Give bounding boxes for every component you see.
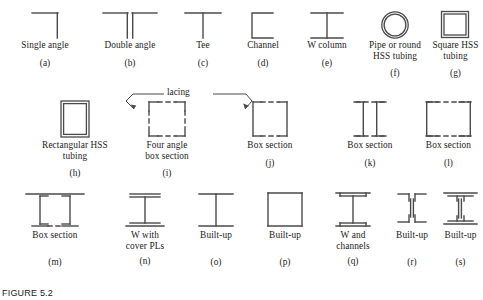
pipe-round-hss-drawing	[360, 0, 430, 40]
lacing-annotation-label: lacing	[167, 87, 190, 97]
w-column-drawing	[294, 0, 360, 40]
shape-cell-rectangular-hss: Rectangular HSS tubing (h)	[22, 98, 128, 179]
shape-cell-box-section-l: Box section (l)	[414, 98, 483, 169]
shape-tag: (h)	[22, 168, 128, 179]
shape-cell-built-up-o: Built-up (o)	[182, 186, 250, 268]
shape-label: Four angle box section	[128, 140, 206, 161]
shape-cell-square-hss: Square HSS tubing (g)	[428, 0, 483, 79]
shape-label: Channel	[232, 40, 294, 51]
shape-cell-w-cover-plates: W with cover PLs (n)	[108, 186, 182, 267]
shape-label: Built-up	[182, 230, 250, 241]
shape-label: W with cover PLs	[108, 230, 182, 251]
shape-row-1: Single angle (a) Double angle (b)	[0, 0, 483, 78]
shape-label: Square HSS tubing	[428, 40, 483, 61]
shape-label: Built-up	[250, 230, 320, 241]
built-up-s-drawing	[438, 186, 483, 230]
built-up-r-drawing	[386, 186, 438, 230]
shape-cell-box-section-m: Box section (m)	[2, 186, 108, 268]
shape-cell-box-section-j: Box section (j)	[212, 98, 328, 169]
shape-cell-built-up-p: Built-up (p)	[250, 186, 320, 268]
rectangular-hss-drawing	[22, 98, 128, 140]
shape-cell-double-angle: Double angle (b)	[86, 0, 174, 69]
built-up-p-drawing	[250, 186, 320, 230]
shape-tag: (b)	[86, 58, 174, 69]
shape-cell-tee: Tee (c)	[174, 0, 232, 69]
shape-cell-four-angle-box: Four angle box section (i)	[128, 98, 206, 179]
w-and-channels-drawing	[320, 186, 386, 230]
shape-label: Box section	[212, 140, 328, 151]
shape-label: Double angle	[86, 40, 174, 51]
shape-label: Box section	[320, 140, 420, 151]
shape-cell-built-up-s: Built-up (s)	[438, 186, 483, 268]
square-hss-drawing	[428, 0, 483, 40]
shape-label: Box section	[2, 230, 108, 241]
shape-label: W column	[294, 40, 360, 51]
shape-cell-channel: Channel (d)	[232, 0, 294, 69]
shape-label: Built-up	[438, 230, 483, 241]
shape-tag: (a)	[2, 58, 88, 69]
shape-label: Built-up	[386, 230, 438, 241]
shape-tag: (i)	[128, 168, 206, 179]
shape-tag: (d)	[232, 58, 294, 69]
box-section-l-drawing	[414, 98, 483, 140]
shape-tag: (f)	[360, 68, 430, 79]
built-up-o-drawing	[182, 186, 250, 230]
shape-label: Single angle	[2, 40, 88, 51]
shape-tag: (c)	[174, 58, 232, 69]
shape-cell-pipe-round-hss: Pipe or round HSS tubing (f)	[360, 0, 430, 79]
shape-tag: (l)	[414, 158, 483, 169]
box-section-k-drawing	[320, 98, 420, 140]
figure-5-2: Single angle (a) Double angle (b)	[0, 0, 483, 300]
shape-cell-single-angle: Single angle (a)	[2, 0, 88, 69]
shape-tag: (n)	[108, 256, 182, 267]
single-angle-drawing	[2, 0, 88, 40]
shape-cell-built-up-r: Built-up (r)	[386, 186, 438, 268]
shape-tag: (j)	[212, 158, 328, 169]
shape-tag: (m)	[2, 257, 108, 268]
shape-tag: (o)	[182, 257, 250, 268]
w-cover-plates-drawing	[108, 186, 182, 230]
shape-tag: (s)	[438, 257, 483, 268]
shape-cell-box-section-k: Box section (k)	[320, 98, 420, 169]
box-section-j-drawing	[212, 98, 328, 140]
shape-label: Box section	[414, 140, 483, 151]
shape-cell-w-column: W column (e)	[294, 0, 360, 69]
shape-label: Rectangular HSS tubing	[22, 140, 128, 161]
shape-tag: (q)	[320, 256, 386, 267]
four-angle-box-drawing	[128, 98, 206, 140]
shape-cell-w-and-channels: W and channels (q)	[320, 186, 386, 267]
shape-label: Pipe or round HSS tubing	[360, 40, 430, 61]
shape-tag: (g)	[428, 68, 483, 79]
shape-label: Tee	[174, 40, 232, 51]
box-section-m-drawing	[2, 186, 108, 230]
tee-drawing	[174, 0, 232, 40]
double-angle-drawing	[86, 0, 174, 40]
channel-drawing	[232, 0, 294, 40]
shape-tag: (p)	[250, 257, 320, 268]
figure-caption: FIGURE 5.2	[2, 288, 53, 298]
shape-label: W and channels	[320, 230, 386, 251]
shape-tag: (e)	[294, 58, 360, 69]
shape-tag: (r)	[386, 257, 438, 268]
shape-row-3: Box section (m) W with cover PLs (n)	[0, 186, 483, 281]
shape-tag: (k)	[320, 158, 420, 169]
shape-row-2: lacing Rectangular HSS tubing (h)	[0, 82, 483, 172]
